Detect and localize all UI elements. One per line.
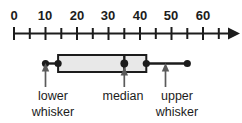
axis-tick-label-60: 60 bbox=[196, 8, 210, 23]
axis-tick-label-40: 40 bbox=[133, 8, 147, 23]
median-label: median bbox=[103, 89, 144, 103]
axis-tick-label-0: 0 bbox=[10, 8, 17, 23]
box-plot-figure: 0 10 20 30 40 50 60 bbox=[0, 0, 242, 123]
box-plot-canvas: 0 10 20 30 40 50 60 bbox=[0, 0, 242, 123]
interquartile-box bbox=[58, 55, 146, 72]
median-dot bbox=[120, 60, 128, 68]
lower-whisker-label-line1: lower bbox=[38, 89, 68, 103]
q3-dot bbox=[143, 60, 150, 67]
axis-arrowhead-icon bbox=[228, 28, 240, 40]
axis-tick-label-20: 20 bbox=[70, 8, 84, 23]
callout-labels: lower whisker median upper whisker bbox=[31, 89, 198, 119]
axis-tick-label-50: 50 bbox=[164, 8, 178, 23]
q1-dot bbox=[55, 60, 62, 67]
upper-whisker-label-line1: upper bbox=[161, 89, 193, 103]
upper-whisker-dot bbox=[184, 60, 191, 67]
axis-tick-label-30: 30 bbox=[101, 8, 115, 23]
axis-tick-label-group: 0 10 20 30 40 50 60 bbox=[10, 8, 210, 23]
upper-whisker-label-line2: whisker bbox=[155, 105, 198, 119]
box-whisker-plot bbox=[42, 55, 191, 72]
axis-tick-label-10: 10 bbox=[38, 8, 52, 23]
lower-whisker-label-line2: whisker bbox=[31, 105, 74, 119]
number-line-axis bbox=[14, 27, 240, 40]
